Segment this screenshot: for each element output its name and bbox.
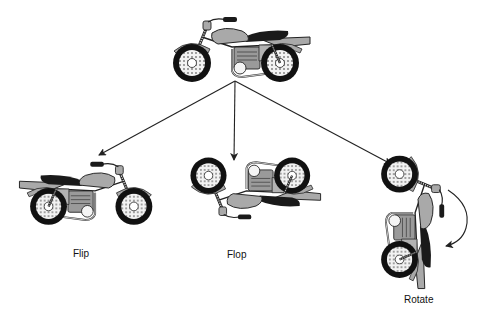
- flopped-motorcycle: [190, 158, 320, 220]
- original-motorcycle: [173, 17, 310, 82]
- diagram-canvas: Flip Flop Rotate: [0, 0, 484, 314]
- clipped-caption-fragment: [125, 0, 285, 2]
- label-flop: Flop: [227, 250, 246, 260]
- flipped-motorcycle: [19, 162, 152, 225]
- rotation-arrow-icon: [446, 190, 467, 246]
- arrows: [99, 81, 391, 164]
- label-flip: Flip: [73, 249, 89, 259]
- arrow-to-rotate: [235, 81, 391, 164]
- diagram-svg: [0, 0, 484, 314]
- rotated-motorcycle: [381, 156, 444, 289]
- arrow-to-flop: [234, 81, 235, 160]
- label-rotate: Rotate: [404, 295, 433, 305]
- arrow-to-flip: [99, 81, 235, 155]
